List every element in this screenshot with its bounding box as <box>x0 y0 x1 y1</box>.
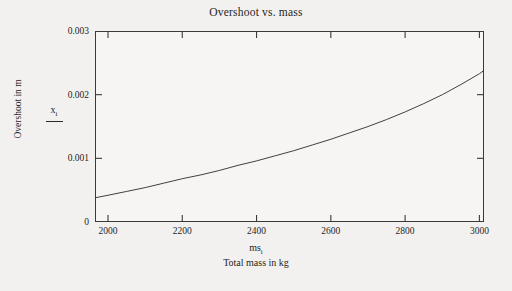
data-series-line <box>95 70 484 197</box>
x-variable-subscript: i <box>261 248 263 256</box>
x-tick-label: 3000 <box>449 226 509 236</box>
x-tick-label: 2000 <box>78 226 138 236</box>
x-axis-caption-block: msi Total mass in kg <box>0 242 512 269</box>
x-tick-label: 2600 <box>301 226 361 236</box>
x-tick-label: 2200 <box>152 226 212 236</box>
y-axis-ticks <box>95 95 484 159</box>
y-tick-label: 0.003 <box>43 27 89 37</box>
x-axis-tick-labels: 2000 2200 2400 2600 2800 3000 <box>0 226 512 240</box>
y-tick-label: 0.002 <box>43 91 89 101</box>
y-axis-title: Overshoot in m <box>13 49 23 169</box>
x-tick-label: 2400 <box>227 226 287 236</box>
x-tick-label: 2800 <box>375 226 435 236</box>
x-axis-ticks <box>108 31 479 222</box>
x-variable-glyph: msi <box>0 242 512 255</box>
x-variable-name: ms <box>249 242 261 253</box>
y-tick-label: 0.001 <box>43 154 89 164</box>
chart-figure: Overshoot vs. mass Overshoot in m xi 0.0… <box>0 0 512 291</box>
x-axis-title: Total mass in kg <box>0 256 512 269</box>
plot-area <box>95 31 484 222</box>
